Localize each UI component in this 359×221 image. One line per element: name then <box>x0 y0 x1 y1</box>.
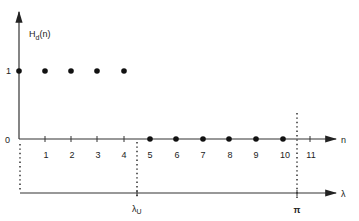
diagram: Hd(n) 1 0 n λ 1 2 3 4 5 6 7 8 9 10 11 λU… <box>0 0 359 221</box>
point-n8 <box>226 136 232 142</box>
y-tick-zero: 0 <box>5 135 10 145</box>
point-n3 <box>94 68 100 74</box>
point-n0 <box>16 68 22 74</box>
y-axis-label: Hd(n) <box>29 29 50 41</box>
y-tick-one: 1 <box>6 66 11 76</box>
svg-text:3: 3 <box>95 150 100 160</box>
point-n2 <box>68 68 74 74</box>
svg-text:2: 2 <box>69 150 74 160</box>
svg-text:7: 7 <box>200 150 205 160</box>
svg-text:8: 8 <box>227 150 232 160</box>
point-n10 <box>280 136 286 142</box>
svg-text:10: 10 <box>280 150 290 160</box>
point-n5 <box>147 136 153 142</box>
point-n7 <box>200 136 206 142</box>
pi-label: π <box>294 205 301 215</box>
data-points <box>16 68 286 142</box>
point-n4 <box>121 68 127 74</box>
svg-text:9: 9 <box>253 150 258 160</box>
svg-text:6: 6 <box>174 150 179 160</box>
point-n9 <box>253 136 259 142</box>
svg-text:1: 1 <box>43 150 48 160</box>
svg-text:5: 5 <box>147 150 152 160</box>
lambda-u-label: λU <box>132 204 142 215</box>
lambda-axis-label: λ <box>341 189 346 199</box>
n-axis-label: n <box>341 135 346 145</box>
point-n1 <box>42 68 48 74</box>
point-n6 <box>173 136 179 142</box>
svg-text:11: 11 <box>306 150 315 160</box>
svg-text:4: 4 <box>121 150 126 160</box>
n-tick-labels: 1 2 3 4 5 6 7 8 9 10 11 <box>43 150 315 160</box>
